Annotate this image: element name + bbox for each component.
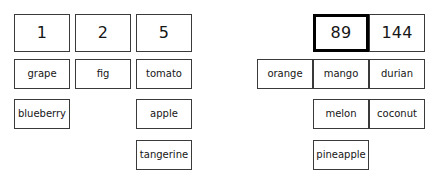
card-tangerine[interactable]: tangerine	[136, 140, 192, 170]
card-fig[interactable]: fig	[75, 59, 131, 89]
card-durian[interactable]: durian	[369, 59, 425, 89]
card-orange[interactable]: orange	[257, 59, 313, 89]
card-melon[interactable]: melon	[313, 99, 369, 129]
card-apple[interactable]: apple	[136, 99, 192, 129]
column-header-89[interactable]: 89	[313, 14, 369, 52]
card-pineapple[interactable]: pineapple	[313, 140, 369, 170]
card-blueberry[interactable]: blueberry	[14, 99, 70, 129]
card-coconut[interactable]: coconut	[369, 99, 425, 129]
column-header-2[interactable]: 2	[75, 14, 131, 52]
card-grape[interactable]: grape	[14, 59, 70, 89]
card-mango[interactable]: mango	[313, 59, 369, 89]
card-tomato[interactable]: tomato	[136, 59, 192, 89]
card-group-right: orange 89 mango melon pineapple 144 duri…	[248, 0, 448, 196]
column-header-1[interactable]: 1	[14, 14, 70, 52]
column-header-5[interactable]: 5	[136, 14, 192, 52]
column-header-144[interactable]: 144	[369, 14, 425, 52]
card-board: 1 grape blueberry 2 fig 5 tomato apple t…	[0, 0, 448, 196]
card-group-left: 1 grape blueberry 2 fig 5 tomato apple t…	[0, 0, 200, 196]
